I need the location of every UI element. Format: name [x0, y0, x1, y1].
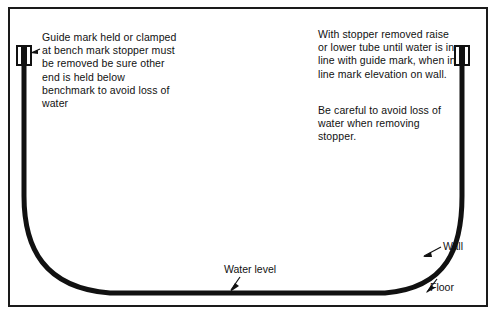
floor-label: Floor: [430, 281, 454, 294]
note-left-text: Guide mark held or clamped at bench mark…: [42, 31, 177, 110]
note-right-bottom-text: Be careful to avoid loss of water when r…: [318, 104, 453, 144]
wall-label: Wall: [443, 240, 463, 253]
water-level-label: Water level: [224, 263, 276, 276]
note-right-top-text: With stopper removed raise or lower tube…: [318, 28, 460, 81]
diagram-canvas: Guide mark held or clamped at bench mark…: [0, 0, 502, 321]
